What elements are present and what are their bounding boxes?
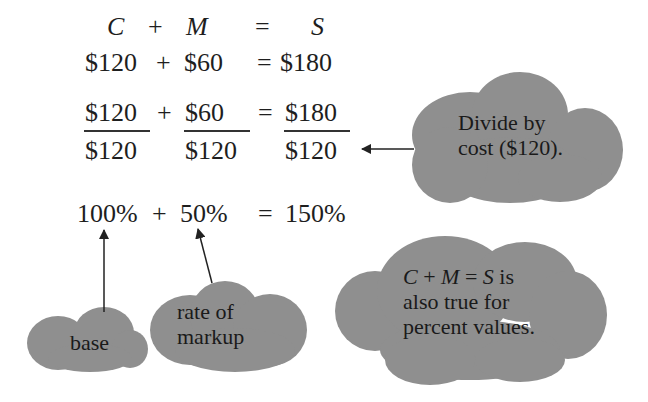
cost-fraction-bar [84,130,150,132]
selling-symbol: S [311,13,324,41]
selling-fraction-bar [284,130,350,132]
selling-numerator: $180 [285,99,337,127]
rate-percent: 50% [180,200,228,228]
note-s-symbol: S [483,264,494,289]
cost-numerator: $120 [85,99,137,127]
markup-value: $60 [184,49,223,77]
percent-note-line3: percent values. [403,314,535,339]
equals-sign: = [255,13,270,41]
divide-callout: Divide by cost ($120). [458,110,563,160]
plus-sign: + [152,200,167,228]
base-percent: 100% [77,200,138,228]
note-m-symbol: M [441,264,459,289]
markup-fraction-bar [184,130,250,132]
note-plus: + [423,264,435,289]
selling-denominator: $120 [285,137,337,165]
base-callout-line1: base [70,330,109,355]
cost-value: $120 [85,49,137,77]
result-percent: 150% [285,200,346,228]
cost-denominator: $120 [85,137,137,165]
equals-sign: = [258,99,273,127]
divide-callout-line1: Divide by [458,110,563,135]
equals-sign: = [257,49,272,77]
plus-sign: + [148,13,163,41]
plus-sign: + [157,99,172,127]
divide-callout-line2: cost ($120). [458,135,563,160]
rate-arrow [198,229,212,283]
note-equals: = [465,264,477,289]
markup-denominator: $120 [185,137,237,165]
base-callout: base [70,330,109,355]
percent-note-callout: C + M = S is also true for percent value… [403,264,535,339]
equals-sign: = [258,200,273,228]
rate-callout-line2: markup [177,324,244,349]
plus-sign: + [156,49,171,77]
rate-callout-line1: rate of [177,299,244,324]
rate-callout: rate of markup [177,299,244,349]
percent-note-line2: also true for [403,289,535,314]
note-is: is [499,264,514,289]
note-c-symbol: C [403,264,418,289]
percent-note-line1: C + M = S is [403,264,535,289]
cost-symbol: C [107,13,124,41]
markup-numerator: $60 [185,99,224,127]
selling-value: $180 [280,49,332,77]
markup-symbol: M [186,13,208,41]
